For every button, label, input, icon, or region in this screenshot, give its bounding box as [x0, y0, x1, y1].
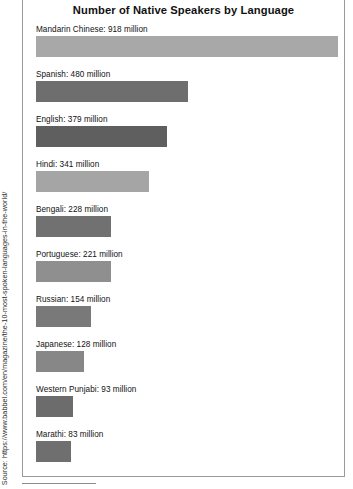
bar-label: Marathi: 83 million: [36, 429, 336, 440]
bar-label: Spanish: 480 million: [36, 69, 336, 80]
bar-group: Marathi: 83 million: [36, 429, 336, 462]
bar-chart: Mandarin Chinese: 918 millionSpanish: 48…: [36, 24, 336, 474]
bar-group: English: 379 million: [36, 114, 336, 147]
bar-label: English: 379 million: [36, 114, 336, 125]
bar-label: Mandarin Chinese: 918 million: [36, 24, 336, 35]
bar-group: Spanish: 480 million: [36, 69, 336, 102]
bar-group: Portuguese: 221 million: [36, 249, 336, 282]
bar-group: Western Punjabi: 93 million: [36, 384, 336, 417]
bar-label: Portuguese: 221 million: [36, 249, 336, 260]
bar-label: Bengali: 228 million: [36, 204, 336, 215]
bar: [36, 81, 188, 102]
chart-frame: Number of Native Speakers by Language Ma…: [22, 0, 345, 477]
bar: [36, 351, 84, 372]
bar-label: Western Punjabi: 93 million: [36, 384, 336, 395]
bar: [36, 261, 111, 282]
bar-group: Mandarin Chinese: 918 million: [36, 24, 336, 57]
bar: [36, 396, 73, 417]
bar-group: Russian: 154 million: [36, 294, 336, 327]
bar-label: Russian: 154 million: [36, 294, 336, 305]
bar: [36, 306, 91, 327]
footer-rule: [22, 483, 96, 484]
bar: [36, 441, 71, 462]
source-note-text: Source: https://www.babbel.com/en/magazi…: [0, 192, 7, 486]
bar-group: Japanese: 128 million: [36, 339, 336, 372]
chart-title: Number of Native Speakers by Language: [23, 4, 344, 16]
bar: [36, 171, 149, 192]
bar-group: Bengali: 228 million: [36, 204, 336, 237]
bar-label: Japanese: 128 million: [36, 339, 336, 350]
bar: [36, 36, 338, 57]
bar-label: Hindi: 341 million: [36, 159, 336, 170]
bar: [36, 126, 167, 147]
bar: [36, 216, 111, 237]
source-note: Source: https://www.babbel.com/en/magazi…: [0, 0, 22, 489]
bar-group: Hindi: 341 million: [36, 159, 336, 192]
